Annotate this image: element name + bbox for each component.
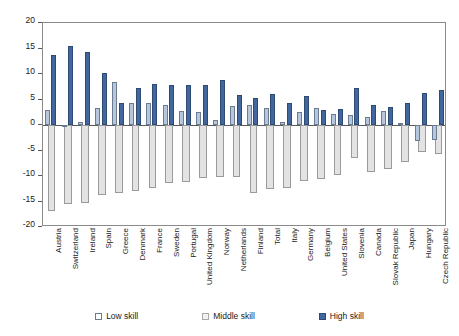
- y-axis-tick-mark: [38, 226, 42, 227]
- y-axis: 20151050-5-10-15-20: [0, 22, 42, 226]
- bar-middle-skill: [401, 125, 409, 162]
- bar-middle-skill: [216, 125, 224, 177]
- bar-middle-skill: [81, 125, 89, 203]
- x-axis-label: Belgium: [323, 228, 332, 257]
- bar-low-skill: [95, 108, 100, 125]
- bar-low-skill: [432, 125, 437, 140]
- x-axis-label: Total: [273, 228, 282, 245]
- bar-high-skill: [152, 84, 157, 125]
- bar-group: [245, 23, 262, 225]
- bar-middle-skill: [334, 125, 342, 175]
- bar-middle-skill: [182, 125, 190, 182]
- x-axis-label: Japan: [407, 228, 416, 250]
- legend-swatch-mid-icon: [202, 313, 209, 320]
- legend-swatch-low-icon: [95, 313, 102, 320]
- legend-item[interactable]: Low skill: [95, 311, 138, 321]
- bar-high-skill: [439, 90, 444, 125]
- bar-group: [127, 23, 144, 225]
- legend-item[interactable]: Middle skill: [202, 311, 255, 321]
- bar-high-skill: [253, 98, 258, 125]
- bar-group: [144, 23, 161, 225]
- y-axis-tick-label: 5: [30, 93, 35, 102]
- bar-middle-skill: [115, 125, 123, 193]
- chart-figure: 20151050-5-10-15-20 AustriaSwitzerlandIr…: [0, 0, 459, 336]
- x-axis-label: Canada: [374, 228, 383, 256]
- bar-high-skill: [371, 105, 376, 125]
- bar-high-skill: [422, 93, 427, 125]
- bar-group: [228, 23, 245, 225]
- bar-high-skill: [321, 110, 326, 125]
- bar-middle-skill: [384, 125, 392, 169]
- bar-high-skill: [338, 109, 343, 125]
- legend-label: Low skill: [106, 311, 138, 321]
- bar-low-skill: [415, 125, 420, 141]
- bar-low-skill: [264, 108, 269, 125]
- legend-item[interactable]: High skill: [319, 311, 364, 321]
- bar-group: [43, 23, 60, 225]
- bar-middle-skill: [48, 125, 56, 211]
- legend-swatch-high-icon: [319, 313, 326, 320]
- bar-middle-skill: [64, 125, 72, 204]
- bar-group: [363, 23, 380, 225]
- x-axis-label: Slovenia: [357, 228, 366, 259]
- bar-low-skill: [62, 125, 67, 127]
- bar-low-skill: [348, 115, 353, 125]
- bar-high-skill: [136, 88, 141, 125]
- x-axis-label: Ireland: [88, 228, 97, 252]
- x-axis-label: Denmark: [138, 228, 147, 260]
- bar-low-skill: [398, 123, 403, 125]
- y-axis-tick-label: -20: [23, 220, 35, 229]
- bar-group: [178, 23, 195, 225]
- bar-high-skill: [354, 88, 359, 125]
- bar-high-skill: [388, 107, 393, 125]
- x-axis-label: Italy: [290, 228, 299, 243]
- bar-low-skill: [230, 106, 235, 125]
- bar-middle-skill: [165, 125, 173, 183]
- x-axis-label: United States: [340, 228, 349, 276]
- bar-low-skill: [297, 112, 302, 125]
- bar-middle-skill: [351, 125, 359, 158]
- bar-low-skill: [365, 117, 370, 125]
- bar-group: [413, 23, 430, 225]
- bar-group: [329, 23, 346, 225]
- bar-high-skill: [102, 73, 107, 125]
- bar-high-skill: [270, 94, 275, 125]
- bar-high-skill: [68, 46, 73, 125]
- bar-middle-skill: [367, 125, 375, 172]
- y-axis-tick-label: 0: [30, 118, 35, 127]
- bar-low-skill: [213, 120, 218, 125]
- chart-legend: Low skillMiddle skillHigh skill: [0, 308, 459, 324]
- bar-group: [94, 23, 111, 225]
- bar-high-skill: [203, 85, 208, 125]
- y-axis-tick-label: 10: [26, 67, 35, 76]
- y-axis-tick-label: 15: [26, 42, 35, 51]
- bar-high-skill: [169, 85, 174, 125]
- y-axis-tick-label: -10: [23, 169, 35, 178]
- bar-low-skill: [112, 82, 117, 125]
- bar-group: [262, 23, 279, 225]
- bar-middle-skill: [317, 125, 325, 179]
- x-axis-label: Germany: [306, 228, 315, 261]
- y-axis-tick-label: -15: [23, 195, 35, 204]
- bar-high-skill: [220, 80, 225, 125]
- bar-low-skill: [196, 112, 201, 125]
- bar-high-skill: [85, 52, 90, 125]
- bar-low-skill: [45, 110, 50, 125]
- bar-high-skill: [287, 103, 292, 125]
- bar-group: [312, 23, 329, 225]
- bar-middle-skill: [98, 125, 106, 195]
- x-axis-label: Norway: [222, 228, 231, 255]
- y-axis-tick-label: -5: [27, 144, 35, 153]
- bar-low-skill: [163, 105, 168, 125]
- x-axis-label: Czech Republic: [441, 228, 450, 284]
- x-axis-label: Slovak Republic: [391, 228, 400, 285]
- bar-low-skill: [331, 114, 336, 125]
- bar-group: [110, 23, 127, 225]
- bar-group: [195, 23, 212, 225]
- x-axis-label: Portugal: [189, 228, 198, 258]
- bar-high-skill: [119, 103, 124, 125]
- x-axis-label: United Kingdom: [205, 228, 214, 285]
- bars-layer: [43, 23, 445, 225]
- x-axis-label: Spain: [104, 228, 113, 248]
- bar-high-skill: [51, 55, 56, 125]
